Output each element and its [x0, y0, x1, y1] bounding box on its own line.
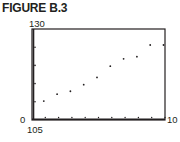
scatter-plot [0, 0, 180, 142]
data-point [96, 77, 98, 79]
y-tick [34, 65, 36, 67]
data-point [136, 56, 138, 58]
y-tick [34, 101, 36, 103]
data-point [43, 100, 45, 102]
x-tick [85, 117, 86, 118]
x-tick [98, 117, 99, 118]
x-tick [58, 117, 59, 118]
y-tick [34, 46, 36, 48]
x-tick [164, 117, 165, 118]
axis-ticks [34, 46, 166, 118]
x-tick [45, 117, 46, 118]
x-tick [124, 117, 125, 118]
data-point [163, 44, 165, 46]
data-point [109, 65, 111, 67]
x-tick [71, 117, 72, 118]
data-point [70, 90, 72, 92]
x-tick [111, 117, 112, 118]
data-point [149, 44, 151, 46]
data-point [123, 58, 125, 60]
data-points [43, 44, 165, 102]
x-tick [151, 117, 152, 118]
data-point [56, 93, 58, 95]
y-tick [34, 83, 36, 85]
plot-frame [32, 29, 165, 120]
data-point [83, 84, 85, 86]
x-tick [138, 117, 139, 118]
